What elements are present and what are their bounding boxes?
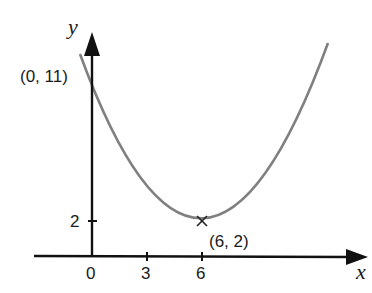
y-tick-label-2: 2 bbox=[70, 212, 79, 231]
y-axis-label: y bbox=[66, 14, 78, 39]
y-axis-arrow-icon bbox=[84, 32, 100, 56]
x-tick-label-3: 3 bbox=[141, 264, 150, 283]
vertex-label: (6, 2) bbox=[209, 232, 249, 251]
x-tick-label-6: 6 bbox=[196, 264, 205, 283]
x-axis bbox=[34, 256, 350, 257]
parabola-curve bbox=[80, 43, 328, 218]
x-tick-label-0: 0 bbox=[86, 264, 95, 283]
intercept-label: (0, 11) bbox=[20, 67, 68, 86]
x-axis-label: x bbox=[355, 259, 366, 284]
graph: y x (0, 11) (6, 2) 0 3 6 2 bbox=[0, 0, 372, 293]
